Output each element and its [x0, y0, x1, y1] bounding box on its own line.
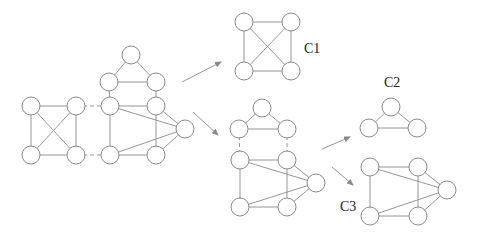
- graph-node: [278, 198, 296, 216]
- graph-node: [176, 120, 194, 138]
- graph-node: [282, 62, 300, 80]
- graph-node: [278, 151, 296, 169]
- diagram-canvas: [0, 0, 480, 240]
- graph-edge: [240, 183, 316, 207]
- graph-node: [438, 181, 456, 199]
- graph-node: [122, 46, 140, 64]
- graph-edge: [370, 167, 447, 190]
- arrow-icon: [322, 137, 350, 149]
- graph-node: [147, 146, 165, 164]
- graph-node: [22, 146, 40, 164]
- graph-node: [235, 62, 253, 80]
- graph-node: [409, 207, 427, 225]
- graph-node: [235, 13, 253, 31]
- graph-decomposition-diagram: C1 C2 C3: [0, 0, 480, 240]
- arrow-icon: [332, 167, 353, 185]
- graph-node: [361, 207, 379, 225]
- graph-node: [307, 174, 325, 192]
- label-c2: C2: [384, 76, 400, 90]
- graph-node: [147, 73, 165, 91]
- graph-node: [22, 97, 40, 115]
- nodes: [22, 13, 456, 225]
- graph-node: [100, 73, 118, 91]
- graph-edge: [370, 190, 447, 216]
- graph-node: [382, 98, 400, 116]
- graph-node: [360, 119, 378, 137]
- arrow-icon: [182, 62, 221, 82]
- label-c1: C1: [304, 42, 320, 56]
- graph-node: [67, 146, 85, 164]
- graph-node: [253, 99, 271, 117]
- arrows: [182, 62, 353, 185]
- graph-node: [408, 119, 426, 137]
- graph-node: [101, 146, 119, 164]
- graph-node: [67, 97, 85, 115]
- graph-node: [278, 120, 296, 138]
- edges: [31, 22, 447, 216]
- graph-node: [409, 158, 427, 176]
- graph-node: [361, 158, 379, 176]
- graph-node: [101, 97, 119, 115]
- graph-node: [282, 13, 300, 31]
- graph-node: [230, 120, 248, 138]
- label-c3: C3: [340, 200, 356, 214]
- graph-node: [231, 151, 249, 169]
- graph-node: [231, 198, 249, 216]
- arrow-icon: [193, 112, 218, 135]
- graph-edge: [240, 160, 316, 183]
- graph-node: [147, 97, 165, 115]
